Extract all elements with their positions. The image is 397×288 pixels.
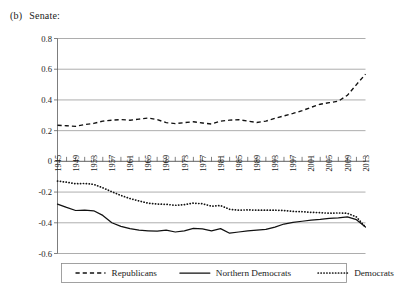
y-tick-label: 0.2 [41,126,52,136]
legend-label-northern-democrats: Northern Democrats [216,268,292,278]
figure-caption-label: (b) [10,10,22,21]
figure-senate: (b)Senate: 0.80.60.40.20-0.2-0.4-0.6 194… [0,0,397,288]
x-tick-label: 1973 [181,155,190,172]
x-tick-label: 1985 [235,155,244,172]
y-tick-label: 0.8 [41,34,52,44]
series-line-northern-democrats [58,204,366,233]
figure-caption-text: Senate: [29,10,60,21]
x-tick-label: 1993 [271,155,280,172]
x-tick-label: 2001 [307,155,316,172]
chart-legend: RepublicansNorthern DemocratsDemocrats [62,264,395,283]
series-line-democrats [58,181,366,227]
x-tick-label: 1981 [217,155,226,172]
line-chart: 0.80.60.40.20-0.2-0.4-0.6 19451949195319… [0,0,397,288]
x-tick-label: 2013 [362,155,371,172]
x-tick-label: 1957 [108,155,117,172]
x-axis: 1945194919531957196119651969197319771981… [54,155,371,172]
data-series [58,74,366,233]
legend-label-republicans: Republicans [112,268,158,278]
y-tick-label: 0.6 [41,64,52,74]
y-tick-label: -0.6 [38,249,52,259]
y-axis: 0.80.60.40.20-0.2-0.4-0.6 [38,34,57,259]
legend-label-democrats: Democrats [354,268,394,278]
x-tick-label: 1961 [126,155,135,172]
x-tick-label: 1965 [144,155,153,172]
x-tick-label: 1949 [72,155,81,172]
grid-lines [58,39,366,254]
x-tick-label: 1989 [253,155,262,172]
x-tick-label: 2005 [325,155,334,172]
y-tick-label: -0.2 [38,187,52,197]
x-tick-label: 1977 [199,155,208,172]
x-tick-label: 1969 [162,155,171,172]
x-tick-label: 2009 [344,155,353,172]
y-tick-label: 0.4 [41,95,52,105]
x-tick-label: 1953 [90,155,99,172]
x-tick-label: 1945 [54,155,63,172]
x-tick-label: 1997 [289,155,298,172]
y-tick-label: 0 [48,156,52,166]
y-tick-label: -0.4 [38,218,52,228]
figure-caption: (b)Senate: [10,10,60,21]
